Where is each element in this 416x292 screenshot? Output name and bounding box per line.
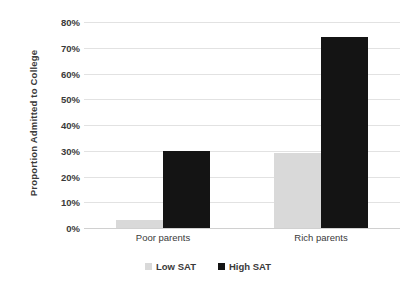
legend-label: High SAT <box>229 261 271 272</box>
y-axis-tick-label: 50% <box>61 94 80 105</box>
bar <box>321 37 368 228</box>
y-axis-tick-label: 30% <box>61 145 80 156</box>
gridline <box>84 228 400 229</box>
legend-swatch-icon <box>218 263 225 270</box>
y-axis-tick-label: 60% <box>61 68 80 79</box>
bars-layer <box>84 22 400 228</box>
legend-item[interactable]: High SAT <box>218 261 271 272</box>
bar <box>116 220 163 228</box>
x-axis-category-label: Rich parents <box>294 232 347 243</box>
legend-item[interactable]: Low SAT <box>145 261 196 272</box>
y-axis-tick-labels: 0%10%20%30%40%50%60%70%80% <box>46 22 80 228</box>
y-axis-tick-label: 40% <box>61 120 80 131</box>
y-axis-title: Proportion Admitted to College <box>22 8 44 238</box>
plot-area <box>84 22 400 228</box>
bar <box>163 151 210 228</box>
y-axis-tick-label: 80% <box>61 17 80 28</box>
y-axis-tick-label: 70% <box>61 42 80 53</box>
y-axis-tick-label: 0% <box>66 223 80 234</box>
legend-label: Low SAT <box>156 261 196 272</box>
x-axis-category-label: Poor parents <box>136 232 190 243</box>
y-axis-tick-label: 20% <box>61 171 80 182</box>
legend-swatch-icon <box>145 263 152 270</box>
y-axis-tick-label: 10% <box>61 197 80 208</box>
chart-legend: Low SATHigh SAT <box>0 258 416 274</box>
bar-chart: Proportion Admitted to College 0%10%20%3… <box>0 0 416 292</box>
bar <box>274 153 321 228</box>
x-axis-category-labels: Poor parentsRich parents <box>84 232 400 250</box>
